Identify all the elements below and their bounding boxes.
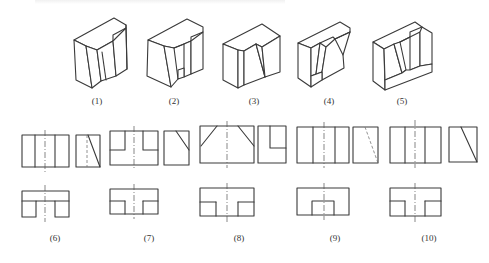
isometric-figure-1 [74,18,127,88]
drawing-canvas [0,0,489,263]
isometric-figure-2 [147,19,203,87]
figure-label-6: (6) [50,233,61,243]
figure-label-4: (4) [324,96,335,106]
orthographic-view-9 [297,122,378,220]
figure-label-2: (2) [169,96,180,106]
figure-label-8: (8) [234,233,245,243]
figure-label-5: (5) [397,96,408,106]
orthographic-view-8 [200,121,286,222]
figure-label-3: (3) [249,96,260,106]
orthographic-view-6 [22,130,100,222]
isometric-figure-3 [223,24,280,88]
figure-label-10: (10) [422,233,437,243]
isometric-figure-5 [373,22,432,90]
figure-label-1: (1) [92,96,103,106]
figure-label-9: (9) [330,233,341,243]
orthographic-view-10 [390,120,477,222]
figure-label-7: (7) [144,233,155,243]
isometric-figure-4 [298,22,350,87]
orthographic-view-7 [110,126,189,219]
